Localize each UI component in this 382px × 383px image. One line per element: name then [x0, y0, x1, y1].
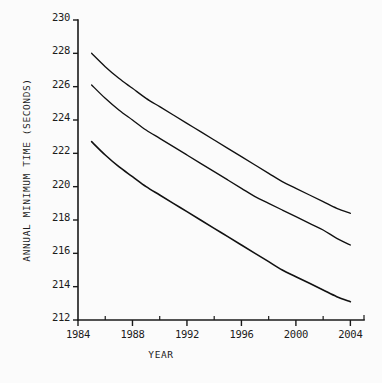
y-tick-label: 230	[52, 11, 70, 23]
x-tick-label: 1984	[66, 328, 90, 340]
y-tick-label: 218	[52, 211, 70, 223]
y-tick-label: 220	[52, 178, 70, 190]
y-tick-label: 216	[52, 244, 70, 256]
x-tick-label: 1988	[120, 328, 144, 340]
y-tick-label: 212	[52, 311, 70, 323]
y-tick-label: 228	[52, 44, 70, 56]
x-tick-label: 2000	[284, 328, 308, 340]
y-axis-title: ANNUAL MINIMUM TIME (SECONDS)	[21, 78, 32, 261]
series-line-lower-curve	[92, 142, 351, 302]
y-tick-label: 222	[52, 144, 70, 156]
x-tick-label: 1992	[175, 328, 199, 340]
y-tick-label: 224	[52, 111, 70, 123]
chart-container: 212214216218220222224226228230 198419881…	[0, 0, 382, 383]
x-axis-title: YEAR	[148, 349, 173, 360]
x-tick-label: 2004	[338, 328, 362, 340]
x-tick-label: 1996	[229, 328, 253, 340]
data-series-group	[92, 53, 351, 301]
series-line-middle-curve	[92, 85, 351, 245]
line-chart: 212214216218220222224226228230 198419881…	[0, 0, 382, 383]
x-axis-ticks: 198419881992199620002004	[66, 315, 364, 340]
y-tick-label: 214	[52, 278, 70, 290]
y-axis-ticks: 212214216218220222224226228230	[52, 11, 78, 323]
y-tick-label: 226	[52, 78, 70, 90]
series-line-upper-curve	[92, 53, 351, 213]
